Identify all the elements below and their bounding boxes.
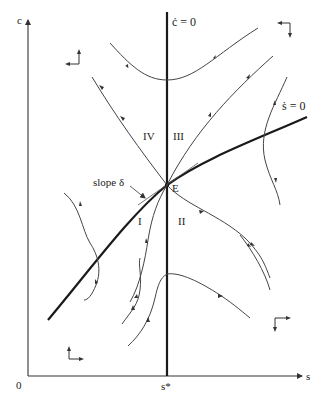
s-dot-zero-label: ṡ = 0 <box>282 99 305 113</box>
arrow-left-icon <box>65 62 70 66</box>
region-i-label: I <box>138 215 142 227</box>
slope-label: slope δ <box>93 176 124 188</box>
trajectory-arrow <box>208 112 211 117</box>
trajectory-left <box>64 193 99 300</box>
direction-indicator-lower-left <box>67 346 84 361</box>
arrow-left-icon <box>277 21 282 25</box>
trajectory-arrow <box>274 178 277 183</box>
trajectory-right <box>263 77 287 205</box>
arrow-right-icon <box>79 357 84 361</box>
arrow-down-icon <box>273 327 277 332</box>
arrow-up-icon <box>67 346 71 351</box>
origin-label: 0 <box>16 379 22 391</box>
direction-indicator-upper-right-arrows <box>277 21 292 38</box>
trajectory-top <box>110 28 258 80</box>
trajectory-arrow <box>250 242 255 246</box>
slope-pointer <box>130 186 145 198</box>
s-star-label: s* <box>161 380 171 392</box>
trajectory-ii <box>167 185 270 278</box>
trajectory-lower-2 <box>128 274 250 346</box>
s-axis-label: s <box>306 370 310 382</box>
trajectory-iii <box>167 56 273 185</box>
phase-diagram: c s 0 s* ċ = 0 ṡ = 0 slope δ E IV III I … <box>0 0 325 410</box>
trajectory-arrow <box>218 294 223 298</box>
trajectory-lower-1 <box>122 258 141 324</box>
trajectory-far-right <box>240 235 270 290</box>
trajectory-arrow <box>120 116 125 121</box>
direction-indicator-upper-left <box>65 49 81 66</box>
arrow-right-icon <box>286 316 291 320</box>
c-dot-zero-label: ċ = 0 <box>172 15 196 29</box>
region-ii-label: II <box>178 215 186 227</box>
c-axis-label: c <box>17 14 22 26</box>
region-iv-label: IV <box>143 130 155 142</box>
arrow-up-icon <box>77 49 81 54</box>
trajectory-arrow <box>146 317 150 322</box>
trajectory-arrow <box>134 294 138 298</box>
region-iii-label: III <box>173 130 184 142</box>
trajectory-arrow <box>125 63 130 68</box>
direction-indicator-lower-right <box>273 316 291 332</box>
arrow-down-icon <box>288 33 292 38</box>
equilibrium-label: E <box>172 182 179 194</box>
trajectory-arrow <box>79 201 82 206</box>
trajectory-iv <box>92 77 167 185</box>
